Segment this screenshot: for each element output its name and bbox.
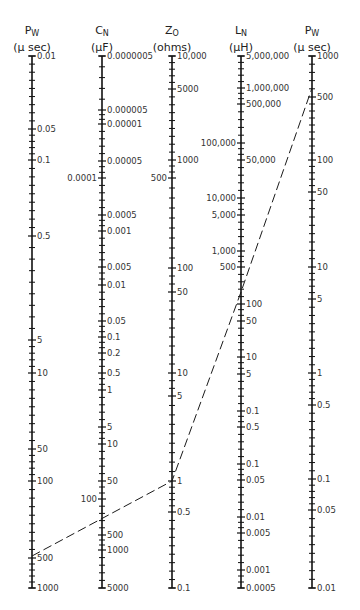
tick-label: 1000 [177, 155, 199, 165]
axis-subscript: W [311, 29, 319, 38]
tick-label: 1 [107, 385, 112, 395]
tick-label: 50,000 [246, 155, 276, 165]
tick-label: 5 [317, 294, 322, 304]
tick-label: 1000 [37, 583, 59, 593]
axis-subscript: W [31, 29, 39, 38]
axis-ln: 5,000,0001,000,000500,000100,00050,00010… [201, 51, 289, 593]
tick-label: 0.5 [37, 231, 51, 241]
tick-label: 100 [317, 155, 333, 165]
tick-label: 0.1 [107, 332, 121, 342]
tick-label: 500 [220, 262, 236, 272]
axis-symbol: C [95, 24, 103, 37]
nomogram: 0.010.050.10.55105010050010000.00000050.… [0, 0, 360, 610]
tick-label: 10 [177, 368, 188, 378]
tick-label: 0.00005 [107, 156, 142, 166]
tick-label: 100,000 [201, 138, 236, 148]
tick-label: 1 [317, 368, 322, 378]
tick-label: 0.1 [246, 459, 260, 469]
tick-label: 10 [317, 262, 328, 272]
tick-label: 5 [107, 422, 112, 432]
axis-zo: 10,000500010005001005010510.50.1 [151, 51, 207, 593]
tick-label: 0.5 [246, 422, 260, 432]
tick-label: 0.0000005 [107, 51, 153, 61]
axis-header-cn: CN(μF) [91, 24, 113, 55]
tick-label: 5 [246, 369, 251, 379]
tick-label: 50 [246, 316, 257, 326]
tick-label: 5000 [107, 583, 129, 593]
tick-label: 500 [107, 530, 123, 540]
tick-label: 0.01 [317, 583, 336, 593]
axis-header-pw-right: PW(μ sec) [293, 24, 331, 55]
tick-label: 10 [246, 352, 257, 362]
tick-label: 100 [177, 263, 193, 273]
tick-label: 100 [81, 494, 97, 504]
tick-label: 10 [37, 368, 48, 378]
tick-label: 50 [37, 444, 48, 454]
tick-label: 0.01 [107, 280, 126, 290]
tick-label: 100 [37, 476, 53, 486]
tick-label: 5 [37, 335, 42, 345]
axis-subscript: O [173, 29, 179, 38]
tick-label: 500 [151, 173, 167, 183]
axis-header-pw-left: PW(μ sec) [13, 24, 51, 55]
axis-symbol: Z [165, 24, 173, 37]
tick-label: 10 [107, 439, 118, 449]
tick-label: 500 [317, 92, 333, 102]
tick-label: 0.5 [107, 368, 121, 378]
tick-label: 1,000 [212, 246, 236, 256]
tick-label: 0.1 [246, 406, 260, 416]
tick-label: 100 [246, 299, 262, 309]
tick-label: 0.0005 [246, 583, 276, 593]
axis-subscript: N [103, 29, 109, 38]
axis-pw-right: 10005001005010510.50.10.050.01 [308, 51, 339, 593]
tick-label: 0.001 [107, 226, 131, 236]
tick-label: 1000 [107, 545, 129, 555]
tick-label: 1 [177, 476, 182, 486]
tick-label: 0.1 [177, 583, 191, 593]
tick-label: 50 [177, 287, 188, 297]
tick-label: 0.2 [107, 348, 121, 358]
tick-label: 0.005 [107, 262, 131, 272]
axis-unit: (μH) [229, 41, 253, 55]
nomogram-axes: 0.010.050.10.55105010050010000.00000050.… [28, 51, 339, 593]
tick-label: 10,000 [206, 193, 236, 203]
axis-header-zo: ZO(ohms) [153, 24, 192, 55]
tick-label: 0.5 [317, 400, 331, 410]
tick-label: 0.000005 [107, 105, 148, 115]
tick-label: 0.001 [246, 565, 270, 575]
tick-label: 0.00001 [107, 119, 142, 129]
tick-label: 5 [177, 391, 182, 401]
axis-unit: (μ sec) [13, 41, 51, 55]
axis-header-ln: LN(μH) [229, 24, 253, 55]
axis-subscript: N [241, 29, 247, 38]
tick-label: 0.0001 [67, 173, 97, 183]
axis-unit: (μ sec) [293, 41, 331, 55]
axis-unit: (μF) [91, 41, 113, 55]
axis-pw-left: 0.010.050.10.5510501005001000 [28, 51, 59, 593]
tick-label: 1,000,000 [246, 83, 289, 93]
tick-label: 500 [37, 553, 53, 563]
tick-label: 0.05 [246, 475, 265, 485]
tick-label: 0.1 [317, 474, 331, 484]
tick-label: 0.05 [107, 316, 126, 326]
tick-label: 0.005 [246, 528, 270, 538]
tick-label: 0.0005 [107, 210, 137, 220]
tick-label: 0.5 [177, 507, 191, 517]
tick-label: 0.1 [37, 155, 51, 165]
tick-label: 5000 [177, 84, 199, 94]
tick-label: 0.05 [317, 505, 336, 515]
tick-label: 5,000 [212, 210, 236, 220]
tick-label: 50 [107, 476, 118, 486]
tick-label: 0.05 [37, 124, 56, 134]
axis-unit: (ohms) [153, 41, 192, 55]
tick-label: 0.01 [246, 512, 265, 522]
tick-label: 50 [317, 187, 328, 197]
axis-cn: 0.00000050.0000050.000010.000050.00010.0… [67, 51, 153, 593]
tick-label: 500,000 [246, 99, 281, 109]
